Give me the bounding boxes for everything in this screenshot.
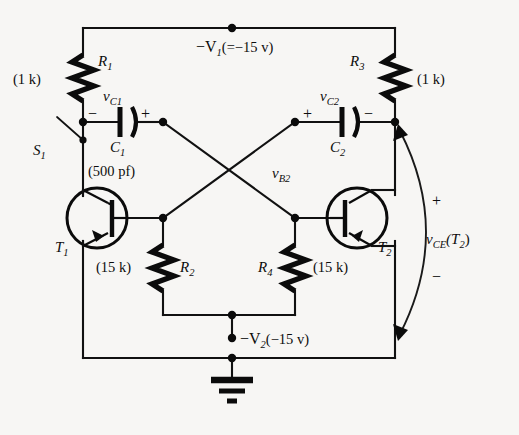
label-T2: T2 <box>378 239 392 258</box>
label-R4: R4 <box>257 259 273 278</box>
c2-subscript: 2 <box>340 147 346 158</box>
v2-value: (−15 v) <box>266 331 309 348</box>
label-R3-value: (1 k) <box>417 71 445 88</box>
node-c2-left <box>291 118 299 126</box>
node-c1-right <box>159 118 167 126</box>
t1-subscript: 1 <box>63 247 68 258</box>
circuit-schematic-svg: −V1(=−15 v) R1 (1 k) R3 (1 k) vC1 − + C1… <box>0 0 519 435</box>
label-R1-value: (1 k) <box>13 71 41 88</box>
svg-text:C2: C2 <box>330 139 346 158</box>
resistor-R1 <box>72 55 94 101</box>
label-R1: R1 <box>97 53 112 72</box>
svg-text:vCE(T2): vCE(T2) <box>426 231 470 250</box>
label-R3: R3 <box>349 53 364 72</box>
label-vC2: vC2 <box>320 88 340 107</box>
v1-minus: −V <box>196 38 217 55</box>
c1-subscript: 1 <box>120 147 125 158</box>
label-S1: S1 <box>33 142 46 161</box>
svg-text:vC2: vC2 <box>320 88 340 107</box>
svg-text:−V1(=−15 v): −V1(=−15 v) <box>196 38 273 58</box>
junction-nodes <box>79 24 399 362</box>
ground-symbol <box>211 380 253 401</box>
vce-subscript: CE <box>433 239 447 250</box>
transistor-T1 <box>67 188 127 248</box>
resistor-R3 <box>384 55 406 101</box>
r1-letter: R <box>97 53 107 69</box>
vce-of-close: ) <box>465 231 470 248</box>
r2-subscript: 2 <box>189 267 195 278</box>
label-supply-v2: −V2(−15 v) <box>240 330 309 350</box>
vc1-right-sign: + <box>141 105 150 122</box>
circuit-wires <box>83 28 395 377</box>
node-v2-terminal <box>228 334 236 342</box>
resistor-R4 <box>284 245 306 291</box>
svg-text:R1: R1 <box>97 53 112 72</box>
svg-text:R4: R4 <box>257 259 273 278</box>
node-v1-supply <box>228 24 236 32</box>
vce-minus-sign: − <box>432 268 441 285</box>
node-ground <box>228 354 236 362</box>
svg-text:R2: R2 <box>179 259 195 278</box>
vc2-subscript: C2 <box>327 96 340 107</box>
node-v2-bus <box>228 311 236 319</box>
v2-minus: −V <box>240 330 261 347</box>
svg-text:vC1: vC1 <box>103 88 122 107</box>
svg-text:R3: R3 <box>349 53 364 72</box>
svg-text:vB2: vB2 <box>272 165 291 184</box>
vce-plus-sign: + <box>432 192 441 209</box>
circuit-figure: −V1(=−15 v) R1 (1 k) R3 (1 k) vC1 − + C1… <box>0 0 519 435</box>
label-C2: C2 <box>330 139 346 158</box>
v1-value: (=−15 v) <box>222 39 274 56</box>
label-vB2: vB2 <box>272 165 291 184</box>
resistor-R2 <box>152 245 174 291</box>
s1-subscript: 1 <box>41 150 46 161</box>
node-base-t1 <box>159 214 167 222</box>
label-R4-value: (15 k) <box>313 259 348 276</box>
vb2-subscript: B2 <box>279 173 291 184</box>
vc1-left-sign: − <box>88 105 97 122</box>
r2-letter: R <box>179 259 189 275</box>
r4-subscript: 4 <box>267 267 273 278</box>
svg-text:−V2(−15 v): −V2(−15 v) <box>240 330 309 350</box>
node-left-collector <box>79 118 87 126</box>
vce-arc-path <box>400 131 426 334</box>
r1-subscript: 1 <box>107 61 112 72</box>
r4-letter: R <box>257 259 267 275</box>
svg-text:T1: T1 <box>55 239 69 258</box>
label-C1: C1 <box>110 139 125 158</box>
capacitor-C2 <box>342 107 358 137</box>
node-base-t2 <box>291 214 299 222</box>
vc2-right-sign: − <box>364 105 373 122</box>
vc2-left-sign: + <box>303 105 312 122</box>
vce-measurement-arc <box>393 124 426 341</box>
svg-text:T2: T2 <box>378 239 392 258</box>
label-C1-value: (500 pf) <box>88 163 135 180</box>
vc1-subscript: C1 <box>110 96 122 107</box>
capacitor-C1 <box>120 107 136 137</box>
svg-text:C1: C1 <box>110 139 125 158</box>
svg-text:S1: S1 <box>33 142 46 161</box>
r3-letter: R <box>349 53 359 69</box>
label-T1: T1 <box>55 239 69 258</box>
label-vCE: vCE(T2) <box>426 231 470 250</box>
t2-subscript: 2 <box>386 247 392 258</box>
r3-subscript: 3 <box>358 61 364 72</box>
label-supply-v1: −V1(=−15 v) <box>196 38 273 58</box>
label-vC1: vC1 <box>103 88 122 107</box>
label-R2: R2 <box>179 259 195 278</box>
label-R2-value: (15 k) <box>96 259 131 276</box>
